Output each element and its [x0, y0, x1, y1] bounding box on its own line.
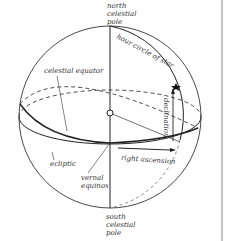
vernal-equinox-label-2: equinox — [81, 182, 109, 190]
hour-circle-label: hour circle of star — [115, 33, 176, 70]
celestial-sphere-diagram: north celestial pole hour circle of star… — [0, 0, 225, 241]
ncp-label-3: pole — [107, 18, 122, 26]
vernal-equinox-label-1: vernal — [81, 174, 103, 182]
ncp-label-1: north — [107, 2, 126, 10]
right-ascension-label: right ascension — [121, 154, 176, 166]
ecliptic-leader — [52, 152, 54, 160]
declination-label: declination — [162, 98, 170, 138]
celestial-equator-leader — [57, 76, 67, 131]
scp-label-1: south — [106, 213, 126, 221]
earth-center — [107, 110, 113, 116]
ecliptic-back — [20, 87, 198, 128]
ecliptic-label: ecliptic — [50, 160, 76, 168]
ncp-label-2: celestial — [107, 10, 137, 18]
hour-circle — [110, 26, 183, 140]
celestial-equator-label: celestial equator — [44, 67, 104, 75]
scp-label-2: celestial — [106, 221, 136, 229]
scp-label-3: pole — [106, 229, 121, 237]
right-ascension-arrow — [118, 148, 170, 150]
right-ascension-arrowhead — [170, 148, 176, 152]
vernal-equinox-leader — [88, 143, 110, 173]
